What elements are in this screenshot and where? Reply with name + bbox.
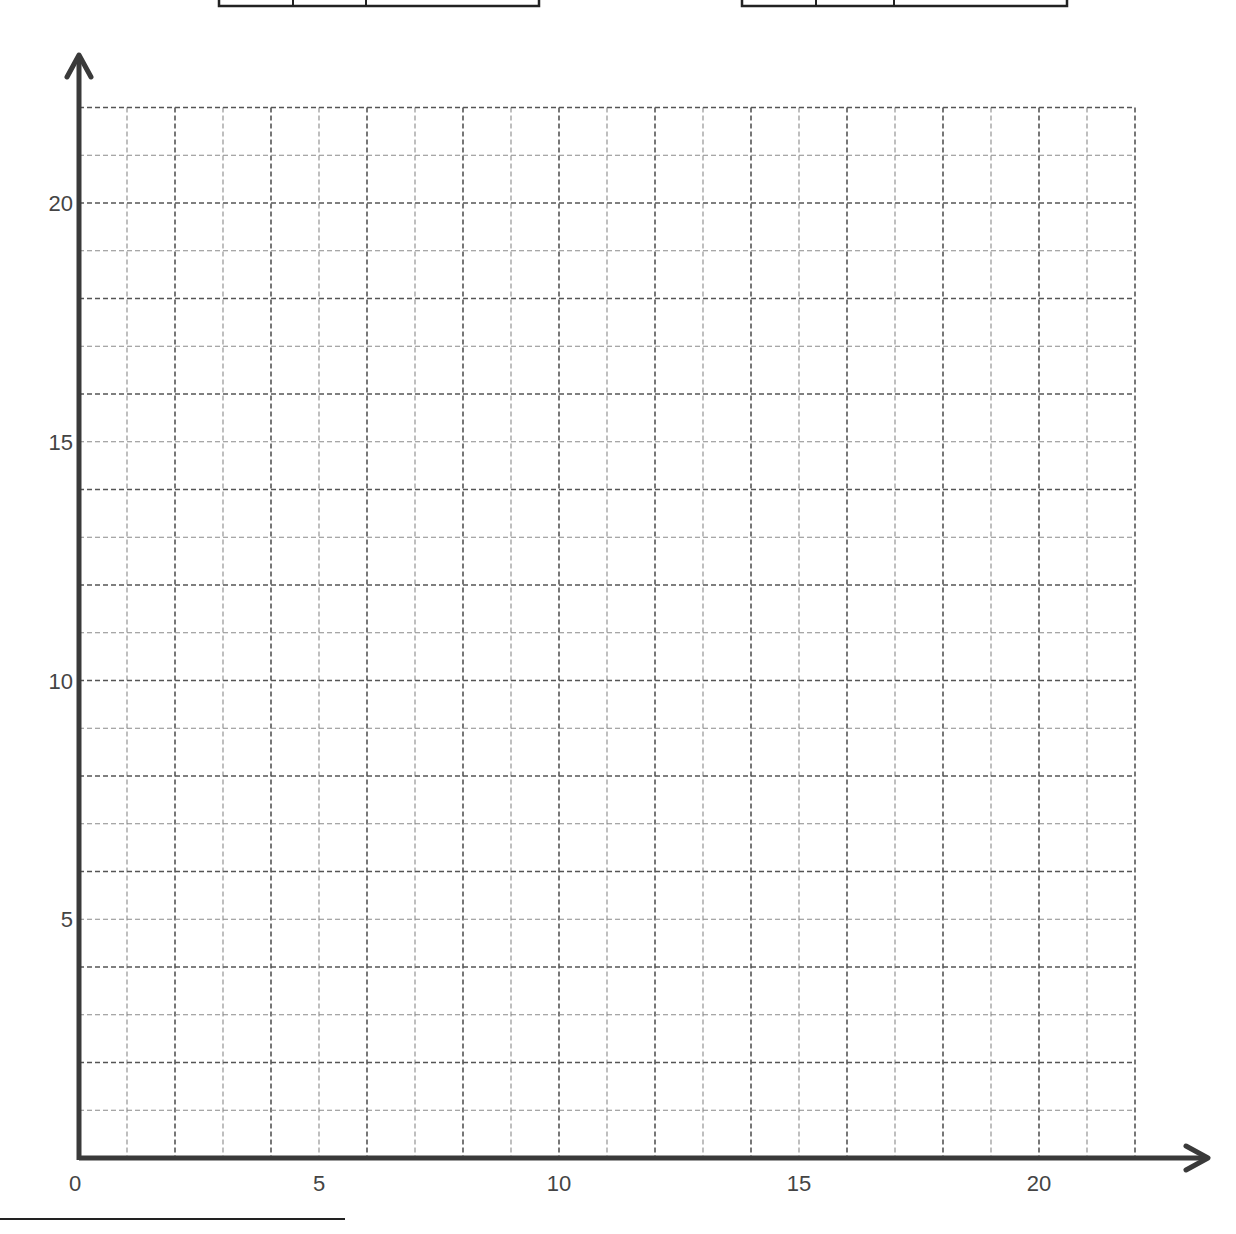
x-axis-tick-labels: 05101520 [69, 1171, 1051, 1196]
x-tick-label: 20 [1027, 1171, 1051, 1196]
y-tick-label: 20 [49, 191, 73, 216]
coordinate-grid-chart: 05101520 5101520 [0, 0, 1236, 1234]
answer-tables [219, 0, 1067, 6]
y-tick-label: 10 [49, 669, 73, 694]
y-tick-label: 15 [49, 430, 73, 455]
x-tick-label: 0 [69, 1171, 81, 1196]
x-tick-label: 10 [547, 1171, 571, 1196]
axes [67, 55, 1208, 1170]
graph-worksheet: 05101520 5101520 [0, 0, 1236, 1234]
answer-table-1 [219, 0, 539, 6]
x-tick-label: 15 [787, 1171, 811, 1196]
x-tick-label: 5 [313, 1171, 325, 1196]
y-tick-label: 5 [61, 907, 73, 932]
grid-lines [79, 108, 1135, 1159]
y-axis-tick-labels: 5101520 [49, 191, 73, 932]
answer-table-2 [742, 0, 1067, 6]
